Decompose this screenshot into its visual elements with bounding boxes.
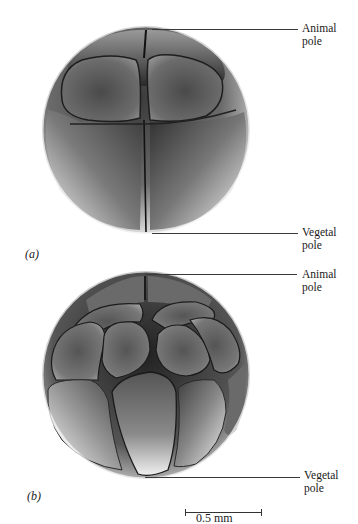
panel-letter-b: (b) [27,489,41,504]
animal-pole-label-a: Animal pole [302,22,337,48]
scale-bar-label: 0.5 mm [196,511,233,524]
panel-a: Animal pole Vegetal pole (a) [0,0,358,260]
animal-pole-leader-line-b [145,274,297,275]
scale-bar-tick-left [185,509,186,516]
panel-b: Animal pole Vegetal pole (b) [0,260,358,524]
vegetal-pole-label-b: Vegetal pole [304,469,338,495]
animal-pole-leader-line-a [152,29,298,30]
vegetal-pole-leader-line-a [152,233,298,234]
vegetal-pole-label-a: Vegetal pole [302,226,336,252]
animal-pole-label-b: Animal pole [302,268,337,294]
scale-bar-tick-right [261,509,262,516]
vegetal-pole-leader-line-b [145,477,300,478]
